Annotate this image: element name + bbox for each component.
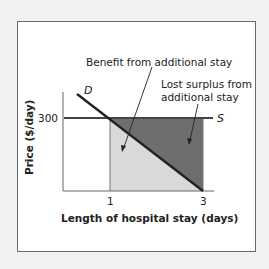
demand-label: D	[84, 84, 92, 97]
supply-label: S	[217, 112, 224, 125]
x-axis-label: Length of hospital stay (days)	[61, 212, 238, 224]
y-axis-label: Price ($/day)	[23, 100, 35, 175]
chart-svg: Benefit from additional stay Lost surplu…	[0, 0, 269, 269]
lost-surplus-label-line1: Lost surplus from	[161, 78, 252, 90]
x-tick-3: 3	[200, 195, 207, 207]
benefit-label: Benefit from additional stay	[86, 56, 232, 68]
y-tick-300: 300	[38, 112, 58, 124]
lost-surplus-label-line2: additional stay	[161, 91, 239, 103]
x-tick-1: 1	[107, 195, 114, 207]
